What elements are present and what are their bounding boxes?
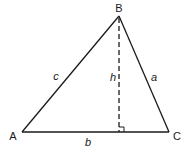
side-a-line (119, 16, 169, 132)
vertex-label-c: C (173, 130, 181, 142)
side-label-b: b (85, 136, 91, 148)
side-c-line (22, 16, 119, 132)
triangle-diagram: B A C c h a b (0, 0, 188, 149)
right-angle-marker (119, 127, 124, 132)
vertex-label-b: B (115, 2, 122, 14)
side-label-c: c (53, 70, 59, 82)
vertex-label-a: A (9, 130, 17, 142)
side-label-a: a (151, 71, 157, 83)
altitude-label-h: h (110, 71, 116, 83)
